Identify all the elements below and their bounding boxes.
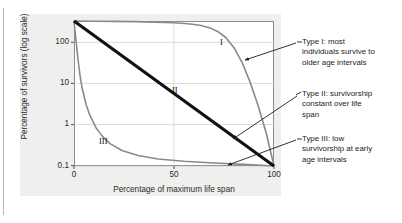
x-axis-title: Percentage of maximum life span [74, 185, 274, 194]
annotation-type-2: Type II: survivorship constant over life… [302, 89, 402, 120]
y-tick-100: 100 [55, 37, 69, 46]
y-tick-1: 1 [64, 119, 69, 128]
figure-left-rule [3, 8, 4, 215]
annotation-type-2-line-2: constant over life [302, 99, 402, 109]
leader-tail-type-2 [296, 92, 301, 95]
y-axis-title: Percentage of survivors (log scale) [20, 7, 29, 147]
annotation-type-3-line-1: Type III: low [302, 134, 402, 144]
annotation-type-1-line-1: Type I: most [302, 37, 402, 47]
annotation-type-1-line-3: older age intervals [302, 58, 402, 68]
annotation-type-2-line-1: Type II: survivorship [302, 89, 402, 99]
curve-label-I: I [220, 37, 223, 47]
annotation-type-1-line-2: individuals survive to [302, 47, 402, 57]
x-tick-100: 100 [259, 170, 289, 179]
y-tick-10: 10 [60, 78, 69, 87]
annotation-type-2-line-3: span [302, 110, 402, 120]
x-tick-0: 0 [59, 170, 89, 179]
x-tick-50: 50 [159, 170, 189, 179]
curve-label-II: II [172, 85, 178, 95]
annotation-type-1: Type I: most individuals survive to olde… [302, 37, 402, 68]
annotation-type-3-line-2: survivorship at early [302, 144, 402, 154]
y-tick-0.1: 0.1 [58, 161, 69, 170]
annotation-type-3-line-3: age intervals [302, 155, 402, 165]
survivorship-curves-figure: Percentage of survivors (log scale) 100 … [0, 0, 402, 223]
curve-label-III: III [99, 136, 108, 146]
annotation-type-3: Type III: low survivorship at early age … [302, 134, 402, 165]
